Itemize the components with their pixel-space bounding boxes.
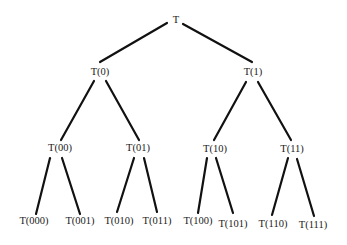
node-label-010: T(010) xyxy=(104,215,134,227)
edge-10-to-101 xyxy=(216,158,233,213)
edge-01-to-011 xyxy=(144,158,157,212)
binary-tree-diagram: TT(0)T(1)T(00)T(01)T(10)T(11)T(000)T(001… xyxy=(0,0,347,245)
node-label-000: T(000) xyxy=(19,215,49,227)
node-label-1: T(1) xyxy=(244,66,263,78)
node-label-001: T(001) xyxy=(65,215,95,227)
edge-00-to-000 xyxy=(36,158,50,214)
edge-11-to-110 xyxy=(272,158,288,215)
node-label-111: T(111) xyxy=(299,219,328,231)
node-label-101: T(101) xyxy=(218,218,248,230)
edge-11-to-111 xyxy=(297,159,314,216)
node-label-011: T(011) xyxy=(143,215,172,227)
edge-1-to-11 xyxy=(258,82,291,140)
edge-0-to-00 xyxy=(61,81,94,140)
node-label-11: T(11) xyxy=(280,143,304,155)
node-label-00: T(00) xyxy=(48,142,72,154)
edge-01-to-010 xyxy=(117,158,134,212)
node-label-110: T(110) xyxy=(259,218,288,230)
edge-1-to-10 xyxy=(214,82,246,140)
edge-0-to-01 xyxy=(106,81,139,140)
edge-T-to-0 xyxy=(100,23,167,62)
edge-10-to-100 xyxy=(198,158,207,213)
node-label-01: T(01) xyxy=(126,142,150,154)
edge-T-to-1 xyxy=(183,24,252,62)
tree-edges xyxy=(36,23,314,216)
node-label-100: T(100) xyxy=(183,215,213,227)
node-label-0: T(0) xyxy=(91,66,110,78)
edge-00-to-001 xyxy=(62,158,80,214)
node-label-T: T xyxy=(173,14,180,25)
node-label-10: T(10) xyxy=(203,143,227,155)
